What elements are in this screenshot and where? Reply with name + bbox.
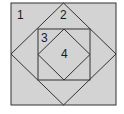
label-region-1: 1: [17, 8, 24, 22]
label-region-3: 3: [41, 31, 48, 45]
nested-squares-diagram: 1 2 3 4: [0, 0, 124, 114]
label-region-2: 2: [60, 8, 67, 22]
label-region-4: 4: [61, 47, 68, 61]
